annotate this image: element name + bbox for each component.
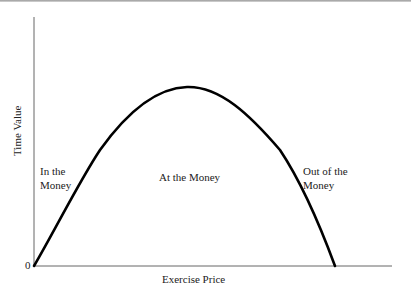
chart-plot-area [0, 0, 411, 298]
y-tick-zero: 0 [25, 259, 31, 272]
x-axis-label: Exercise Price [162, 273, 225, 286]
annotation-at-the-money: At the Money [159, 171, 220, 184]
annotation-out-of-the-money-line1: Out of the [303, 165, 348, 178]
annotation-out-of-the-money-line2: Money [303, 179, 334, 192]
annotation-in-the-money-line2: Money [40, 179, 71, 192]
annotation-in-the-money-line1: In the [40, 165, 65, 178]
y-axis-label: Time Value [10, 100, 24, 156]
